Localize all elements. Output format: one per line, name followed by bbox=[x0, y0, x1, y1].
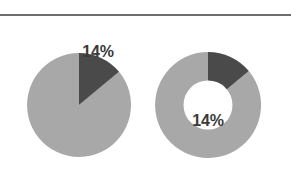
donut-center-value-label: 14% bbox=[180, 111, 236, 131]
pie-value-label: 14% bbox=[70, 42, 126, 62]
pie-chart bbox=[27, 53, 131, 157]
chart-figure: 14% 14% bbox=[0, 0, 291, 172]
charts-container: 14% 14% bbox=[0, 16, 291, 172]
charts-svg bbox=[0, 16, 291, 172]
donut-chart bbox=[155, 52, 261, 158]
